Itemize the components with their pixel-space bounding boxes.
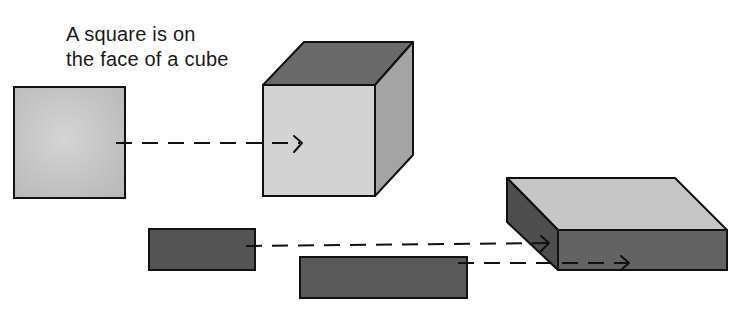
- prism-front-face: [558, 230, 727, 270]
- square-shape: [14, 87, 125, 198]
- cube-front-face: [263, 85, 375, 196]
- small-rect-to-prism-arrow: [246, 236, 549, 251]
- cube-shape: [263, 42, 413, 196]
- small-rectangle-shape: [149, 229, 255, 270]
- diagram-canvas: [0, 0, 752, 313]
- prism-shape: [507, 178, 727, 270]
- large-rectangle-shape: [300, 257, 467, 298]
